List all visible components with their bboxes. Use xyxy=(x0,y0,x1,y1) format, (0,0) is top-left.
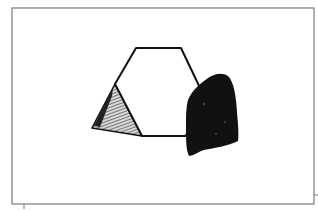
blob-speckle xyxy=(224,121,225,122)
sketch-canvas xyxy=(0,0,318,211)
blob-speckle xyxy=(203,103,205,105)
blob-speckle xyxy=(215,133,216,134)
